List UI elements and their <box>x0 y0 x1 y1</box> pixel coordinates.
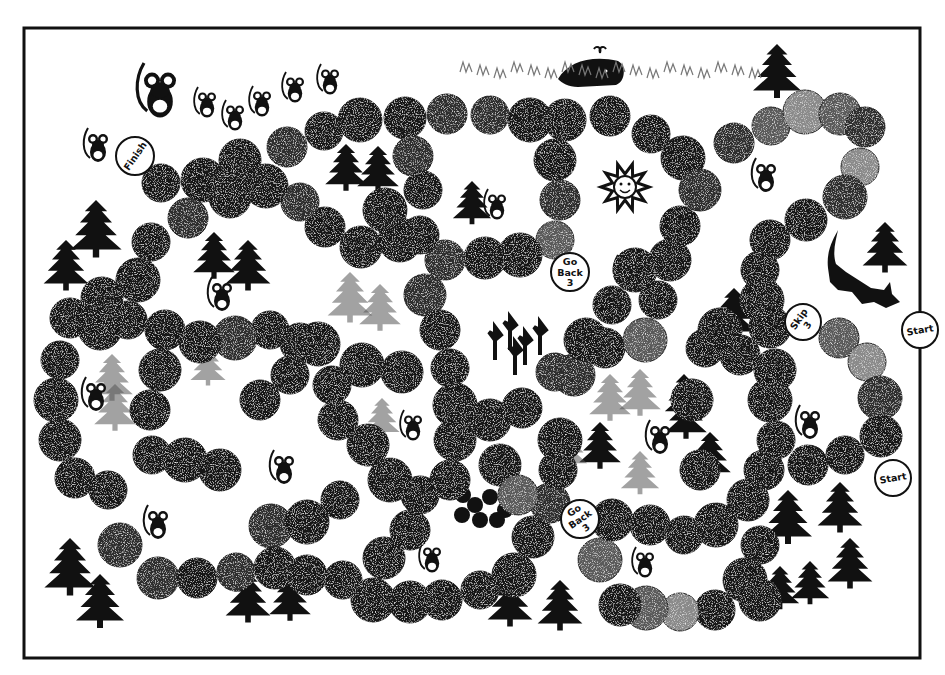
grass-icon <box>528 65 540 75</box>
board-space[interactable] <box>98 523 142 567</box>
board-space[interactable] <box>599 584 641 626</box>
special-space-skip-3[interactable]: Skip3 <box>785 304 821 340</box>
tree-icon <box>357 146 399 193</box>
board-space[interactable] <box>209 176 251 218</box>
tree-icon <box>753 44 801 98</box>
board-space[interactable] <box>78 306 122 350</box>
board-space[interactable] <box>340 343 384 387</box>
special-space-go-back-3-top[interactable]: GoBack3 <box>551 253 589 291</box>
board-space[interactable] <box>785 199 827 241</box>
board-space[interactable] <box>788 445 828 485</box>
board-space[interactable] <box>338 98 382 142</box>
mouse-icon <box>282 72 304 103</box>
board-space[interactable] <box>177 558 217 598</box>
board-space[interactable] <box>698 308 742 352</box>
board-space[interactable] <box>384 97 426 139</box>
mouse-icon <box>796 405 820 439</box>
board-space[interactable] <box>296 322 340 366</box>
board-space[interactable] <box>660 206 700 246</box>
board-space[interactable] <box>826 436 864 474</box>
mouse-icon <box>484 189 506 220</box>
board-space[interactable] <box>492 553 536 597</box>
board-space[interactable] <box>41 341 79 379</box>
board-space[interactable] <box>538 418 582 462</box>
board-space[interactable] <box>420 310 460 350</box>
tree-icon <box>226 240 271 290</box>
board-space[interactable] <box>639 281 677 319</box>
tree-icon <box>791 561 829 604</box>
board-space[interactable] <box>498 475 538 515</box>
board-space[interactable] <box>858 376 902 420</box>
board-space[interactable] <box>714 123 754 163</box>
board-space[interactable] <box>671 379 713 421</box>
board-space[interactable] <box>860 415 902 457</box>
board-space[interactable] <box>427 94 467 134</box>
board-space[interactable] <box>137 557 179 599</box>
board-space[interactable] <box>431 349 469 387</box>
pale-tree-icon <box>359 284 401 331</box>
board-space[interactable] <box>471 96 509 134</box>
board-space[interactable] <box>422 580 462 620</box>
special-space-finish[interactable]: Finish <box>116 137 154 175</box>
pale-tree-icon <box>328 272 373 322</box>
board-space[interactable] <box>287 555 327 595</box>
board-space[interactable] <box>393 136 433 176</box>
board-space[interactable] <box>630 505 670 545</box>
grass-icon <box>477 65 489 75</box>
board-space[interactable] <box>679 169 721 211</box>
board-space[interactable] <box>267 127 307 167</box>
grass-icon <box>494 68 506 78</box>
board-space[interactable] <box>390 510 430 550</box>
board-space[interactable] <box>623 318 667 362</box>
board-space[interactable] <box>544 99 586 141</box>
board-space[interactable] <box>590 96 630 136</box>
board-space[interactable] <box>739 579 781 621</box>
grass-icon <box>630 65 642 75</box>
board-space[interactable] <box>823 175 867 219</box>
board-space[interactable] <box>680 450 720 490</box>
board-space[interactable] <box>540 180 580 220</box>
board-space[interactable] <box>757 421 795 459</box>
board-space[interactable] <box>845 107 885 147</box>
board-space[interactable] <box>340 226 382 268</box>
board-space[interactable] <box>355 581 393 619</box>
board-space[interactable] <box>578 538 622 582</box>
board-space[interactable] <box>564 318 608 362</box>
tree-icon <box>453 181 491 224</box>
board-space[interactable] <box>378 218 422 262</box>
board-space[interactable] <box>89 471 127 509</box>
mouse-icon <box>249 86 271 117</box>
pale-tree-icon <box>619 369 661 416</box>
board-space[interactable] <box>464 237 506 279</box>
mouse-icon <box>752 158 776 192</box>
board-space[interactable] <box>534 139 576 181</box>
board-space[interactable] <box>168 198 208 238</box>
mouse-icon <box>646 420 670 454</box>
board-space[interactable] <box>130 390 170 430</box>
mouse-icon <box>144 505 168 539</box>
board-space[interactable] <box>695 590 735 630</box>
board-space[interactable] <box>145 310 185 350</box>
board-space[interactable] <box>271 356 309 394</box>
board-space[interactable] <box>139 349 181 391</box>
board-space[interactable] <box>217 553 255 591</box>
special-space-start-top[interactable]: Start <box>902 312 938 348</box>
board-space[interactable] <box>502 388 542 428</box>
board-space[interactable] <box>39 419 81 461</box>
board-space[interactable] <box>593 286 631 324</box>
grass-icon <box>732 65 744 75</box>
special-space-start-bottom[interactable]: Start <box>875 460 911 496</box>
board-space[interactable] <box>318 400 358 440</box>
board-space[interactable] <box>381 351 423 393</box>
mouse-icon <box>270 450 294 484</box>
board-space[interactable] <box>199 449 241 491</box>
board-space[interactable] <box>285 500 329 544</box>
board-space[interactable] <box>404 171 442 209</box>
board-space[interactable] <box>536 353 574 391</box>
board-space[interactable] <box>305 112 343 150</box>
mouse-icon <box>137 63 176 117</box>
board-space[interactable] <box>132 223 170 261</box>
tree-icon <box>828 538 873 588</box>
board-space[interactable] <box>848 343 886 381</box>
board-space[interactable] <box>34 378 78 422</box>
